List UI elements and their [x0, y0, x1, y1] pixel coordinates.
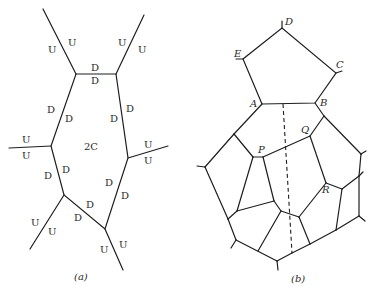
edge-b: [237, 201, 274, 211]
vertex-label-q: Q: [301, 124, 309, 135]
stub-upper-right: [361, 151, 366, 154]
edge-label: U: [48, 44, 56, 55]
vertex-label-a: A: [249, 98, 257, 109]
edge-label: U: [31, 217, 39, 228]
edge-bq: [310, 116, 324, 136]
edge-b: [336, 189, 342, 230]
edge-label: D: [121, 190, 129, 201]
edge-b: [324, 116, 361, 154]
edge-b: [228, 219, 236, 240]
edge-label: U: [144, 139, 152, 150]
edge-label: U: [119, 239, 127, 250]
edge-label: D: [105, 177, 113, 188]
edge-b: [359, 154, 361, 176]
vertex-label-r: R: [321, 184, 330, 195]
edge-b: [299, 217, 310, 244]
edge-b: [310, 230, 336, 244]
edge-b: [258, 211, 281, 251]
edge-b: [263, 157, 274, 201]
edge-b: [342, 176, 359, 189]
edge-label: D: [65, 113, 73, 124]
vertex-label-c: C: [336, 59, 344, 70]
vertex-label-d: D: [284, 16, 293, 27]
edge-b: [234, 134, 253, 157]
edge-label: D: [74, 212, 82, 223]
vertex-label-b: B: [319, 97, 327, 108]
edge-b: [336, 216, 359, 230]
stub-bottom: [277, 261, 278, 270]
edge-label: U: [68, 37, 76, 48]
edge-b: [274, 201, 281, 211]
vertex-label-p: P: [257, 144, 265, 155]
edge-label: D: [86, 199, 94, 210]
edge-label: D: [91, 75, 99, 86]
pentagon-cell-abcde: [243, 28, 336, 104]
figure-canvas: U U U U D D D D D D U U U U D D D D D D …: [0, 0, 370, 294]
edge-qr: [310, 136, 326, 183]
panel-b-labels: D E C A B Q P R (b): [233, 16, 344, 284]
edge-b: [205, 134, 234, 167]
panel-b-caption: (b): [291, 273, 305, 284]
edge-label: D: [44, 170, 52, 181]
edge-b: [237, 157, 253, 211]
stub-lower-left: [231, 240, 236, 248]
edge-label: U: [100, 244, 108, 255]
edge-label: U: [22, 150, 30, 161]
vertex-label-e: E: [233, 48, 242, 59]
edge-b: [228, 211, 237, 219]
dashed-line: [283, 104, 292, 253]
edge-label: U: [118, 37, 126, 48]
edge-label: U: [138, 44, 146, 55]
edge-b: [234, 104, 262, 134]
edge-label: D: [47, 104, 55, 115]
edge-label: D: [110, 113, 118, 124]
edge-label: U: [22, 134, 30, 145]
panel-a-caption: (a): [74, 271, 88, 282]
edge-label: U: [144, 155, 152, 166]
cell-center-label: 2C: [84, 141, 98, 152]
edge-label: D: [62, 164, 70, 175]
edge-b: [277, 253, 292, 261]
edge-label: D: [91, 62, 99, 73]
edge-b: [236, 240, 277, 261]
edge-a-left-spoke: [9, 146, 51, 148]
edge-label: D: [126, 103, 134, 114]
stub-lower-right: [359, 216, 365, 221]
edge-label: U: [48, 226, 56, 237]
edge-b: [205, 167, 228, 219]
edge-b: [292, 244, 310, 253]
stub-c: [336, 71, 342, 73]
stub-left: [197, 166, 205, 167]
